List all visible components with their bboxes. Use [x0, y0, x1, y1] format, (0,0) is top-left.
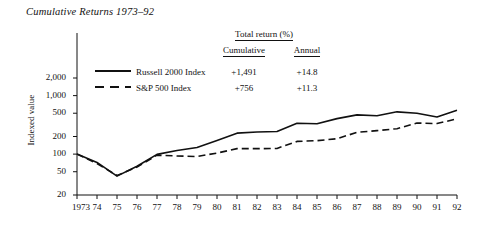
legend-column-cumulative-text: Cumulative — [223, 45, 265, 57]
legend-item-sp500-cumulative: +756 — [213, 83, 275, 93]
legend-item-sp500-annual: +11.3 — [284, 83, 330, 93]
legend-column-cumulative: Cumulative — [213, 45, 275, 55]
legend-column-annual: Annual — [284, 45, 330, 55]
chart-container: Cumulative Returns 1973–92 Indexed value… — [0, 0, 479, 229]
series-line-russell-2000 — [77, 110, 457, 176]
legend-header: Total return (%) — [216, 29, 312, 39]
x-tick-label: 92 — [442, 203, 472, 212]
legend-item-russell-annual: +14.8 — [284, 67, 330, 77]
legend-header-text: Total return (%) — [235, 29, 293, 41]
y-tick-label: 1,000 — [24, 91, 66, 100]
legend-item-sp500-label: S&P 500 Index — [136, 83, 191, 93]
legend-item-russell-cumulative: +1,491 — [213, 67, 275, 77]
y-tick-label: 20 — [24, 190, 66, 199]
legend-item-russell-label: Russell 2000 Index — [136, 67, 206, 77]
y-tick-label: 2,000 — [24, 73, 66, 82]
y-tick-label: 100 — [24, 149, 66, 158]
y-tick-label: 50 — [24, 167, 66, 176]
legend-column-annual-text: Annual — [294, 45, 321, 57]
y-tick-label: 500 — [24, 108, 66, 117]
y-tick-label: 200 — [24, 132, 66, 141]
